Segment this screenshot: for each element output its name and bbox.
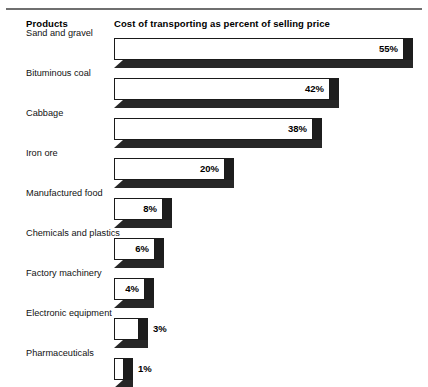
bar: 3%	[114, 318, 139, 340]
bar-value-label: 6%	[114, 238, 149, 260]
bar-bottom-shadow	[114, 60, 413, 68]
category-label: Manufactured food	[26, 188, 112, 199]
bar-chart-plot: Sand and gravel55%Bituminous coal42%Cabb…	[0, 0, 428, 387]
bar: 1%	[114, 358, 124, 380]
chart-row: Pharmaceuticals1%	[0, 342, 428, 382]
bar-value-label: 38%	[114, 118, 307, 140]
bar-value-label: 8%	[114, 198, 157, 220]
chart-row: Chemicals and plastics6%	[0, 222, 428, 262]
category-label: Chemicals and plastics	[26, 228, 112, 239]
chart-row: Manufactured food8%	[0, 182, 428, 222]
category-label: Pharmaceuticals	[26, 348, 112, 359]
bar-value-label: 3%	[153, 318, 167, 340]
bar-value-label: 42%	[114, 78, 324, 100]
chart-row: Cabbage38%	[0, 102, 428, 142]
chart-row: Bituminous coal42%	[0, 62, 428, 102]
bar-value-label: 55%	[114, 38, 398, 60]
bar-bottom-shadow	[114, 180, 234, 188]
chart-row: Sand and gravel55%	[0, 22, 428, 62]
bar: 42%	[114, 78, 330, 100]
bar: 8%	[114, 198, 163, 220]
bar: 4%	[114, 278, 145, 300]
bar-bottom-shadow	[114, 140, 322, 148]
chart-row: Electronic equipment3%	[0, 302, 428, 342]
category-label: Iron ore	[26, 148, 112, 159]
bar-face	[114, 318, 139, 340]
category-label: Electronic equipment	[26, 308, 112, 319]
bar-value-label: 20%	[114, 158, 219, 180]
chart-page: Products Cost of transporting as percent…	[0, 0, 428, 387]
chart-row: Factory machinery4%	[0, 262, 428, 302]
bar: 6%	[114, 238, 155, 260]
bar-bottom-shadow	[114, 100, 339, 108]
bar: 55%	[114, 38, 404, 60]
bar-face	[114, 358, 124, 380]
bar-bottom-shadow	[114, 220, 172, 228]
category-label: Sand and gravel	[26, 28, 112, 39]
category-label: Cabbage	[26, 108, 112, 119]
category-label: Bituminous coal	[26, 68, 112, 79]
chart-row: Iron ore20%	[0, 142, 428, 182]
category-label: Factory machinery	[26, 268, 112, 279]
bar-bottom-shadow	[114, 380, 133, 387]
bar-value-label: 4%	[114, 278, 139, 300]
bar-value-label: 1%	[138, 358, 152, 380]
bar: 20%	[114, 158, 225, 180]
bar: 38%	[114, 118, 313, 140]
